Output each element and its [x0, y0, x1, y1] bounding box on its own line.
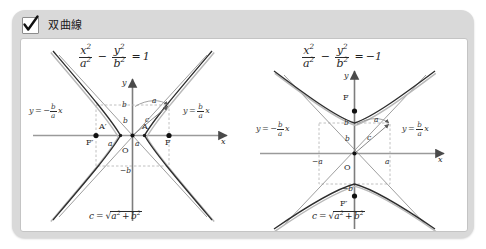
tick-b-top-right: b — [344, 119, 349, 127]
tick-b-inner-left: b — [123, 117, 128, 125]
screenshot-root: 双曲線 x2a2 − y2b2 =1 — [0, 0, 486, 249]
diagram-board: x2a2 − y2b2 =1 — [20, 38, 468, 232]
tick-b-inner-right: b — [345, 135, 350, 143]
focus-f-left: F — [165, 139, 171, 147]
panel-header: 双曲線 — [12, 10, 474, 40]
c-formula-left: c=√a2+b2 — [89, 211, 142, 221]
tick-a-top-left: a — [152, 97, 156, 105]
tick-a-top-right: a — [374, 116, 378, 124]
y-axis-label-right: y — [344, 72, 349, 80]
tick-a-right-right: a — [385, 158, 389, 166]
origin-label-left: O — [122, 147, 129, 155]
tick-minus-a-right: −a — [312, 158, 323, 166]
origin-label-right: O — [344, 164, 351, 172]
hyperbola-checkbox[interactable] — [22, 17, 39, 34]
figure-horizontal-hyperbola: x2a2 − y2b2 =1 — [21, 39, 244, 231]
tick-b-top-left: b — [122, 101, 127, 109]
asymptote-label-right-fig-neg: y=−bax — [256, 121, 290, 137]
hyperbola-plot-left — [21, 39, 244, 231]
c-formula-right: c=√a2+b2 — [312, 211, 365, 221]
panel-title: 双曲線 — [48, 20, 83, 31]
check-icon — [21, 14, 40, 35]
tick-minus-b-left: −b — [120, 167, 131, 175]
asymptote-label-left-neg: y=−bax — [29, 103, 63, 119]
focus-f-right: F — [343, 94, 349, 102]
focus-f-prime-left: F′ — [86, 139, 93, 147]
vertex-a-left: A — [142, 123, 148, 131]
tick-c-right: c — [367, 134, 371, 142]
focus-f-prime-right: F′ — [340, 200, 347, 208]
figure-vertical-hyperbola: x2a2 − y2b2 =−1 — [244, 39, 467, 231]
asymptote-label-right-fig-pos: y=bax — [402, 121, 429, 137]
vertex-a-prime-left: A′ — [99, 123, 107, 131]
asymptote-label-right-pos: y=bax — [183, 103, 210, 119]
x-axis-label-right: x — [438, 156, 443, 164]
y-axis-label-left: y — [122, 79, 127, 87]
tick-minus-b-right: −b — [342, 185, 353, 193]
tick-a-right-left: a — [135, 140, 139, 148]
x-axis-label-left: x — [221, 138, 226, 146]
tick-a-left-left: a — [108, 140, 112, 148]
hyperbola-panel: 双曲線 x2a2 − y2b2 =1 — [12, 10, 474, 238]
